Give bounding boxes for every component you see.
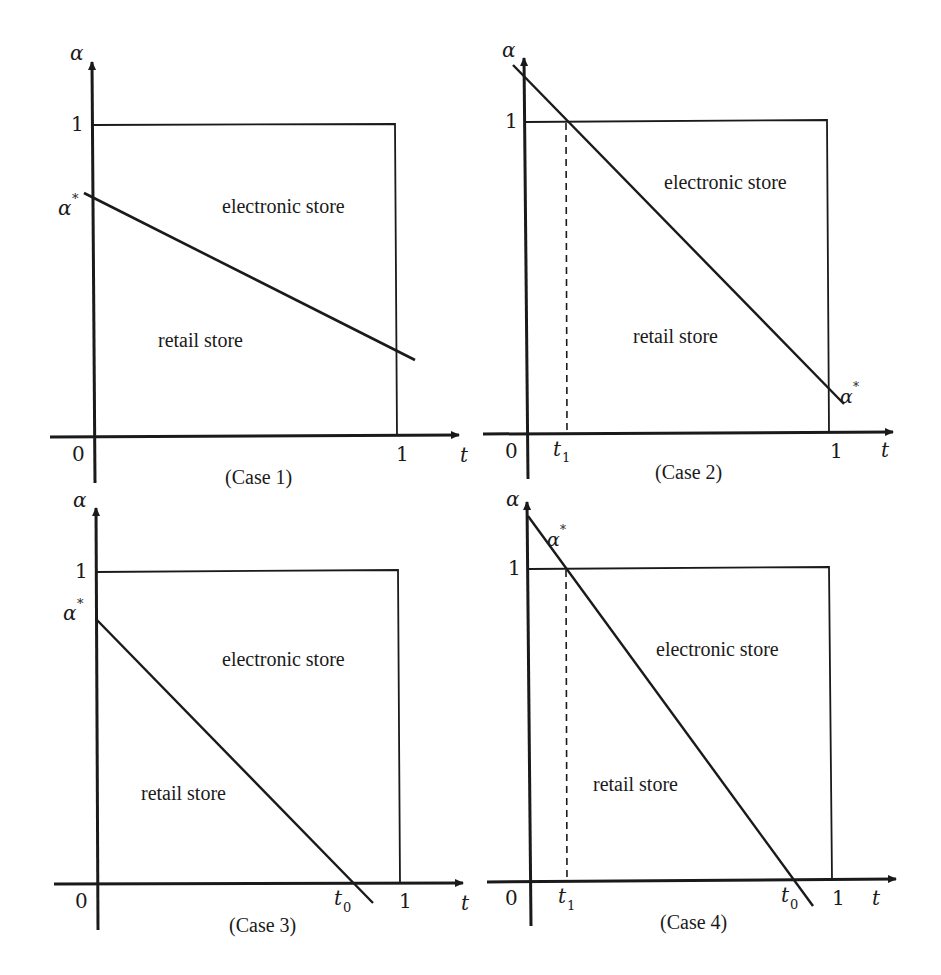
region-retail-store: retail store	[141, 782, 226, 804]
x-axis-label: t	[461, 891, 470, 915]
panel-case-2: α 1 α * 0 t 1 1 t electronic store retai…	[483, 38, 893, 484]
alpha-star-label: α *	[547, 523, 566, 550]
alpha-star-label: α *	[840, 380, 859, 407]
x-tick-one: 1	[832, 886, 845, 910]
svg-text:α: α	[63, 601, 77, 625]
boundary-line	[84, 193, 415, 360]
t0-tick-label: t 0	[781, 883, 798, 912]
case-caption: (Case 3)	[229, 914, 296, 937]
x-axis-label: t	[460, 443, 469, 467]
x-tick-one: 1	[399, 889, 412, 913]
x-tick-zero: 0	[75, 889, 88, 913]
region-retail-store: retail store	[633, 325, 718, 347]
y-tick-one: 1	[75, 559, 88, 583]
four-case-diagram: α 1 α * 0 1 t electronic store retail st…	[0, 0, 941, 975]
region-electronic-store: electronic store	[222, 195, 345, 217]
x-axis	[487, 879, 896, 882]
y-axis-label: α	[506, 487, 520, 511]
t1-dashed-guide	[566, 570, 567, 881]
x-axis-label: t	[881, 438, 890, 462]
x-tick-zero: 0	[505, 886, 518, 910]
svg-text:t: t	[781, 883, 790, 907]
x-axis-label: t	[872, 886, 881, 910]
t0-tick-label: t 0	[334, 886, 351, 915]
svg-text:1: 1	[567, 898, 575, 913]
alpha-star-label: α *	[58, 191, 79, 220]
case-caption: (Case 2)	[655, 461, 722, 484]
case-caption: (Case 1)	[225, 466, 292, 489]
case-caption: (Case 4)	[660, 911, 727, 934]
svg-text:t: t	[334, 886, 343, 910]
t1-tick-label: t 1	[553, 437, 570, 465]
y-tick-one: 1	[505, 109, 518, 133]
panel-case-3: α 1 α * 0 t 0 1 t electronic store retai…	[54, 488, 470, 937]
x-axis	[54, 883, 463, 884]
svg-text:0: 0	[790, 897, 798, 912]
panel-case-1: α 1 α * 0 1 t electronic store retail st…	[50, 41, 469, 489]
svg-text:t: t	[553, 437, 562, 461]
svg-text:*: *	[72, 191, 79, 206]
t1-tick-label: t 1	[558, 884, 575, 913]
panel-case-4: α 1 α * 0 t 1 t 0 1 t electronic store r…	[487, 487, 896, 934]
y-axis-label: α	[70, 41, 84, 65]
region-retail-store: retail store	[593, 773, 678, 795]
boundary-line	[513, 65, 844, 404]
x-axis	[483, 432, 893, 434]
unit-box	[96, 570, 400, 883]
svg-text:*: *	[77, 596, 84, 611]
y-axis-label: α	[73, 488, 87, 512]
svg-text:0: 0	[343, 900, 351, 915]
y-tick-one: 1	[508, 556, 521, 580]
x-tick-zero: 0	[72, 442, 85, 466]
x-tick-one: 1	[396, 442, 409, 466]
svg-text:α: α	[840, 385, 853, 407]
x-tick-zero: 0	[505, 439, 518, 463]
region-electronic-store: electronic store	[656, 638, 779, 660]
alpha-star-label: α *	[63, 596, 84, 625]
svg-text:t: t	[558, 884, 567, 908]
svg-text:α: α	[58, 196, 72, 220]
svg-text:1: 1	[562, 450, 570, 465]
svg-text:*: *	[853, 380, 859, 394]
y-axis-label: α	[502, 38, 516, 62]
y-axis	[527, 502, 531, 926]
region-electronic-store: electronic store	[222, 648, 345, 670]
boundary-line	[528, 516, 813, 906]
unit-box	[525, 120, 829, 432]
region-electronic-store: electronic store	[664, 171, 787, 193]
region-retail-store: retail store	[158, 329, 243, 351]
t1-dashed-guide	[566, 123, 567, 432]
svg-text:*: *	[560, 523, 566, 537]
svg-text:α: α	[547, 528, 560, 550]
unit-box	[93, 124, 397, 436]
x-tick-one: 1	[830, 439, 843, 463]
y-tick-one: 1	[71, 112, 84, 136]
